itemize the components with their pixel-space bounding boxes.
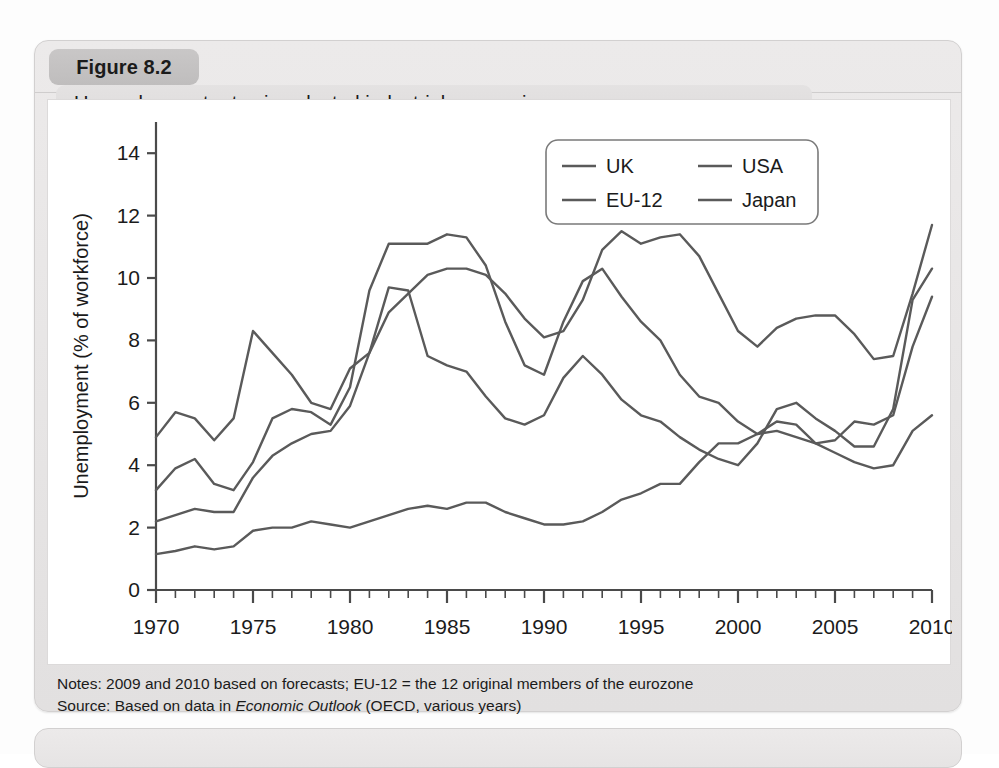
y-tick-label: 2 (128, 516, 140, 539)
legend-box (546, 140, 818, 224)
legend-label-eu-12: EU-12 (606, 189, 663, 211)
y-tick-label: 8 (128, 328, 140, 351)
legend-label-uk: UK (606, 155, 634, 177)
x-tick-label: 1990 (521, 615, 568, 638)
y-tick-label: 4 (128, 453, 140, 476)
x-tick-label: 1995 (618, 615, 665, 638)
figure-header: Figure 8.2 Unemployment rates in selecte… (35, 41, 961, 93)
chart-canvas: 0246810121419701975198019851990199520002… (47, 99, 951, 665)
x-tick-label: 1975 (230, 615, 277, 638)
legend-label-usa: USA (742, 155, 784, 177)
notes-line: Notes: 2009 and 2010 based on forecasts;… (57, 673, 943, 695)
y-tick-label: 10 (117, 266, 140, 289)
y-tick-label: 12 (117, 204, 140, 227)
figure-notes: Notes: 2009 and 2010 based on forecasts;… (57, 673, 943, 717)
x-tick-label: 1985 (424, 615, 471, 638)
series-line-japan (156, 415, 932, 554)
y-tick-label: 0 (128, 578, 140, 601)
x-tick-label: 1970 (133, 615, 180, 638)
figure-number-badge: Figure 8.2 (49, 49, 199, 85)
figure-panel: Figure 8.2 Unemployment rates in selecte… (34, 40, 962, 712)
y-tick-label: 6 (128, 391, 140, 414)
source-title: Economic Outlook (235, 697, 361, 714)
x-tick-label: 1980 (327, 615, 374, 638)
series-line-usa (156, 269, 932, 466)
x-tick-label: 2000 (715, 615, 762, 638)
x-tick-label: 2005 (812, 615, 859, 638)
source-line: Source: Based on data in Economic Outloo… (57, 695, 943, 717)
line-chart: 0246810121419701975198019851990199520002… (48, 100, 952, 666)
next-figure-panel (34, 728, 962, 768)
source-prefix: Source: Based on data in (57, 697, 235, 714)
x-tick-label: 2010 (909, 615, 952, 638)
legend-label-japan: Japan (742, 189, 797, 211)
y-axis-title: Unemployment (% of workforce) (70, 213, 92, 499)
series-line-uk (156, 234, 932, 490)
source-suffix: (OECD, various years) (361, 697, 521, 714)
y-tick-label: 14 (117, 141, 141, 164)
